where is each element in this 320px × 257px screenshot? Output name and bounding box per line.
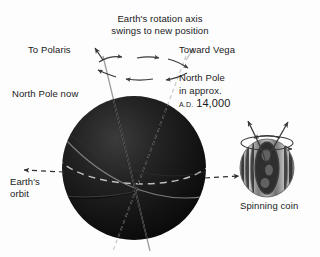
title-line-1: Earth's rotation axis — [78, 13, 242, 25]
title-line-2: swings to new position — [78, 25, 242, 37]
dashed-arrow-right-icon — [205, 176, 239, 178]
label-to-polaris: To Polaris — [28, 44, 71, 56]
north-pole-future-date: A.D. 14,000 — [179, 97, 230, 112]
earths-orbit-line1: Earth's — [10, 176, 40, 188]
earths-orbit-line2: orbit — [10, 188, 40, 200]
label-toward-vega: Toward Vega — [179, 44, 235, 56]
label-earths-orbit: Earth's orbit — [10, 176, 40, 200]
label-north-pole-future: North Pole in approx. A.D. 14,000 — [179, 72, 230, 112]
precession-arrows-icon — [98, 57, 188, 80]
label-north-pole-now: North Pole now — [12, 88, 78, 100]
diagram-graphics — [0, 0, 320, 257]
year-label: 14,000 — [196, 97, 230, 109]
north-pole-future-line1: North Pole — [179, 72, 230, 85]
diagram-title: Earth's rotation axis swings to new posi… — [78, 13, 242, 36]
north-pole-future-line2: in approx. — [179, 85, 230, 98]
precession-diagram: Earth's rotation axis swings to new posi… — [0, 0, 320, 257]
dashed-arrow-left-icon — [24, 170, 64, 172]
era-label: A.D. — [179, 101, 193, 108]
label-spinning-coin: Spinning coin — [240, 200, 298, 212]
earth-sphere — [52, 96, 214, 240]
